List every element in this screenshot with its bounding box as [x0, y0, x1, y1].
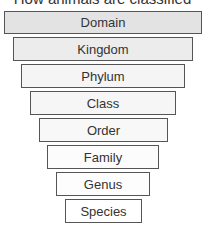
level-phylum: Phylum — [21, 64, 185, 88]
diagram-title: How animals are classified — [0, 0, 205, 6]
level-label: Order — [87, 124, 120, 137]
level-label: Domain — [81, 16, 126, 29]
level-class: Class — [30, 91, 176, 115]
level-label: Family — [84, 151, 122, 164]
level-label: Class — [87, 97, 120, 110]
level-genus: Genus — [56, 172, 150, 196]
level-kingdom: Kingdom — [13, 37, 193, 61]
level-label: Species — [80, 205, 126, 218]
level-order: Order — [39, 118, 168, 142]
level-species: Species — [65, 199, 142, 223]
level-label: Phylum — [81, 70, 124, 83]
level-family: Family — [47, 145, 159, 169]
level-domain: Domain — [4, 11, 202, 34]
level-label: Genus — [84, 178, 122, 191]
level-label: Kingdom — [77, 43, 128, 56]
